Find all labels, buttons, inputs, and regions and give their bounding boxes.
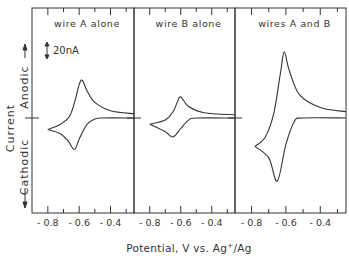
- panel-1: [25, 8, 134, 213]
- cathodic-scan-curve: [255, 118, 346, 181]
- anodic-scan-curve: [255, 52, 346, 147]
- anodic-arrow-icon: [23, 44, 27, 58]
- y-axis-label-current: Current: [4, 104, 17, 152]
- panel-2: [127, 8, 235, 213]
- y-axis-label-cathodic: Cathodic: [18, 139, 31, 196]
- x-tick-label: - 0.8: [139, 217, 161, 228]
- cyclic-voltammogram-chart: - 0.8- 0.6- 0.4wire A alone- 0.8- 0.6- 0…: [0, 0, 349, 260]
- x-axis-label: Potential, V vs. Ag+/Ag: [126, 242, 252, 254]
- scale-bar-label: 20nA: [53, 45, 79, 56]
- scale-bar: 20nA: [45, 42, 79, 59]
- panel-label: wires A and B: [258, 18, 331, 29]
- x-tick-label: - 0.6: [68, 217, 90, 228]
- panel-label: wire A alone: [54, 18, 120, 29]
- scale-bar-double-arrow-icon: [45, 42, 49, 59]
- x-tick-label: - 0.8: [241, 217, 263, 228]
- panel-frame: [32, 8, 134, 213]
- x-tick-label: - 0.4: [309, 217, 331, 228]
- x-tick-label: - 0.6: [275, 217, 297, 228]
- anodic-scan-curve: [150, 97, 235, 124]
- x-tick-label: - 0.6: [170, 217, 192, 228]
- cathodic-scan-curve: [48, 118, 134, 150]
- y-axis-annotation: Current Anodic Cathodic: [4, 44, 31, 208]
- x-tick-label: - 0.4: [201, 217, 223, 228]
- anodic-scan-curve: [48, 80, 134, 130]
- panel-3: [228, 8, 346, 213]
- panel-frame: [134, 8, 235, 213]
- x-tick-label: - 0.8: [37, 217, 59, 228]
- panel-frame: [235, 8, 346, 213]
- panel-label: wire B alone: [156, 18, 222, 29]
- y-axis-label-anodic: Anodic: [18, 65, 31, 108]
- x-tick-label: - 0.4: [100, 217, 122, 228]
